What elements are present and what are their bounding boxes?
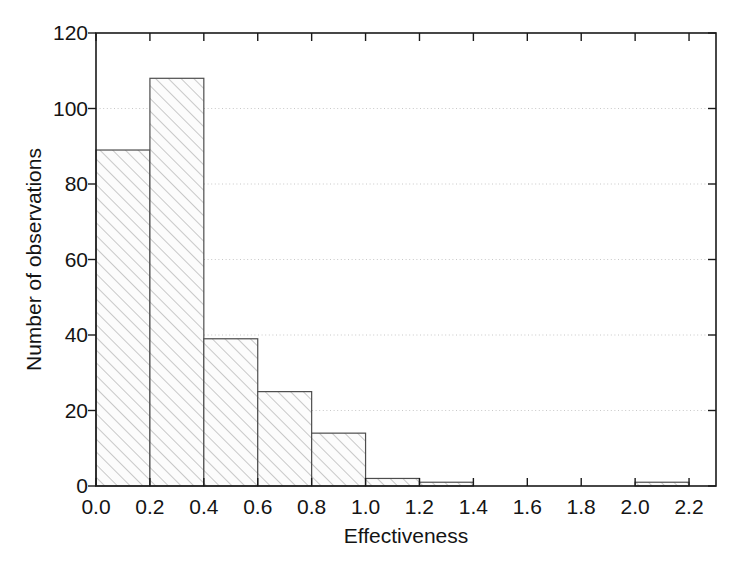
histogram-bars [96, 78, 689, 486]
histogram-bar [96, 150, 150, 486]
plot-area [0, 0, 741, 578]
histogram-figure: Number of observations 020406080100120 0… [0, 0, 741, 578]
histogram-bar [204, 339, 258, 486]
histogram-bar [312, 433, 366, 486]
histogram-bar [366, 478, 420, 486]
histogram-bar [258, 392, 312, 486]
histogram-bar [150, 78, 204, 486]
